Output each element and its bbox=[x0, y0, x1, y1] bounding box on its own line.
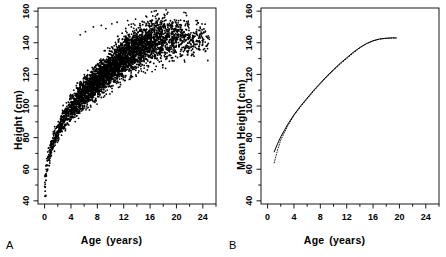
panel-a-x-axis-title: Age(years) bbox=[0, 234, 223, 246]
panel-a-plot: 04812162024406080100120140160 bbox=[0, 0, 223, 257]
svg-text:160: 160 bbox=[244, 4, 254, 19]
panel-b-x-axis-title: Age(years) bbox=[223, 234, 446, 246]
svg-text:16: 16 bbox=[368, 212, 378, 222]
panel-b-x-axis-title-word1: Age bbox=[304, 234, 324, 246]
svg-text:24: 24 bbox=[198, 212, 208, 222]
svg-text:140: 140 bbox=[21, 35, 31, 50]
panel-a-x-axis-title-word1: Age bbox=[81, 234, 101, 246]
svg-text:40: 40 bbox=[21, 196, 31, 206]
panel-a-x-axis-title-word2: (years) bbox=[106, 234, 142, 246]
panel-b-y-axis-title: Mean Height (cm) bbox=[235, 79, 247, 170]
svg-text:4: 4 bbox=[68, 212, 73, 222]
figure-container: 04812162024406080100120140160 Age(years)… bbox=[0, 0, 446, 257]
svg-text:120: 120 bbox=[21, 67, 31, 82]
svg-text:20: 20 bbox=[394, 212, 404, 222]
svg-text:0: 0 bbox=[265, 212, 270, 222]
panel-b: 04812162024406080100120140160 Age(years)… bbox=[223, 0, 446, 257]
panel-a-y-axis-title: Height (cm) bbox=[12, 90, 24, 150]
svg-text:0: 0 bbox=[42, 212, 47, 222]
svg-text:12: 12 bbox=[342, 212, 352, 222]
svg-text:60: 60 bbox=[21, 164, 31, 174]
svg-text:8: 8 bbox=[95, 212, 100, 222]
panel-a: 04812162024406080100120140160 Age(years)… bbox=[0, 0, 223, 257]
svg-text:160: 160 bbox=[21, 4, 31, 19]
svg-text:4: 4 bbox=[291, 212, 296, 222]
panel-b-letter: B bbox=[229, 239, 237, 251]
panel-b-plot: 04812162024406080100120140160 bbox=[223, 0, 446, 257]
panel-a-letter: A bbox=[6, 239, 14, 251]
svg-text:40: 40 bbox=[244, 196, 254, 206]
svg-text:16: 16 bbox=[145, 212, 155, 222]
panel-b-x-axis-title-word2: (years) bbox=[329, 234, 365, 246]
svg-text:20: 20 bbox=[171, 212, 181, 222]
svg-text:8: 8 bbox=[318, 212, 323, 222]
svg-text:24: 24 bbox=[421, 212, 431, 222]
svg-text:12: 12 bbox=[119, 212, 129, 222]
svg-text:140: 140 bbox=[244, 35, 254, 50]
